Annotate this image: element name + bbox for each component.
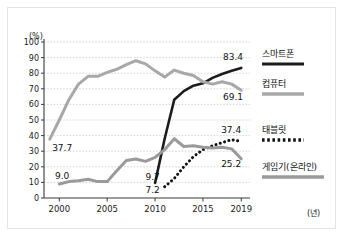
y-axis-tick-labels: 1009080706050403020100 xyxy=(24,38,39,203)
y-tick-label: 80 xyxy=(29,69,39,78)
chart-figure: 1009080706050403020100 20002005201020152… xyxy=(0,0,343,243)
y-tick-label: 10 xyxy=(29,178,39,187)
x-axis-unit-label: (년) xyxy=(307,208,320,218)
data-label-game-end: 25.2 xyxy=(221,159,241,169)
line-chart-svg: 1009080706050403020100 20002005201020152… xyxy=(0,0,343,243)
x-tick-label: 2000 xyxy=(49,204,71,214)
x-tick-label: 2005 xyxy=(96,204,118,214)
y-tick-label: 90 xyxy=(29,54,39,63)
x-axis-tick-labels: 20002005201020152019 xyxy=(49,204,253,214)
legend-label-3: 게임기(온라인) xyxy=(262,161,317,172)
data-label-smartphone-end: 83.4 xyxy=(223,52,243,62)
legend-label-0: 스마트폰 xyxy=(262,49,294,59)
series-line-solid xyxy=(50,61,242,139)
data-series xyxy=(50,61,242,187)
x-tick-label: 2015 xyxy=(192,204,214,214)
y-tick-label: 50 xyxy=(29,116,39,125)
y-axis-unit-label: (%) xyxy=(29,32,43,41)
x-tick-label: 2010 xyxy=(144,204,166,214)
y-tick-label: 70 xyxy=(29,85,39,94)
data-label-tablet-peak: 37.4 xyxy=(221,125,241,135)
data-label-computer-end: 69.1 xyxy=(223,92,243,102)
legend-label-2: 태블릿 xyxy=(262,124,286,135)
x-tick-label: 2019 xyxy=(230,204,252,214)
data-label-game-start: 9.0 xyxy=(55,171,70,181)
y-tick-label: 40 xyxy=(29,132,39,141)
y-tick-label: 20 xyxy=(29,163,39,172)
chart-legend: 스마트폰컴퓨터태블릿게임기(온라인) xyxy=(262,49,324,177)
y-tick-label: 0 xyxy=(34,194,39,203)
y-tick-label: 30 xyxy=(29,147,39,156)
data-label-computer-start: 37.7 xyxy=(52,143,72,153)
data-label-tablet-start: 7.2 xyxy=(146,185,160,195)
data-label-smartphone-start: 9.7 xyxy=(146,172,160,182)
y-tick-label: 60 xyxy=(29,100,39,109)
legend-label-1: 컴퓨터 xyxy=(262,78,286,89)
